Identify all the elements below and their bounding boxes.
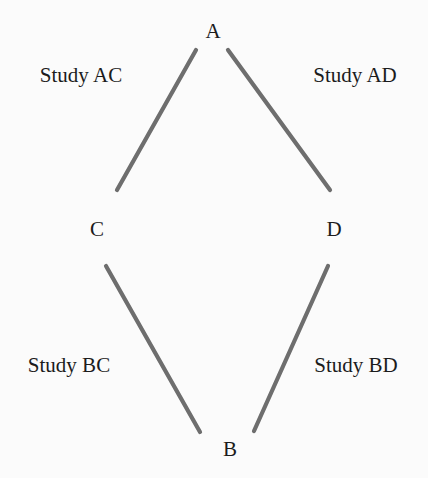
- study-ac-label: Study AC: [40, 65, 122, 86]
- node-a-label: A: [205, 21, 220, 42]
- network-diagram: A C D B Study AC Study AD Study BC Study…: [0, 0, 428, 478]
- node-c-label: C: [90, 219, 104, 240]
- edge-study-bd: [254, 266, 328, 431]
- study-bd-label: Study BD: [314, 355, 397, 376]
- edge-study-ac: [117, 50, 196, 190]
- study-bc-label: Study BC: [28, 355, 110, 376]
- edge-study-bc: [106, 266, 200, 432]
- study-ad-label: Study AD: [313, 65, 396, 86]
- node-d-label: D: [326, 219, 341, 240]
- node-b-label: B: [223, 439, 237, 460]
